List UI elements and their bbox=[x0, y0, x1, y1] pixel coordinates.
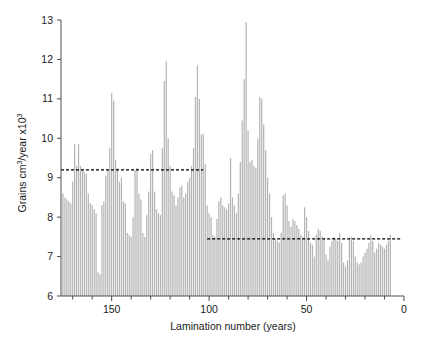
bar bbox=[384, 249, 385, 296]
bar bbox=[283, 195, 284, 296]
bar bbox=[249, 162, 250, 296]
bar bbox=[251, 160, 252, 296]
bar bbox=[207, 205, 208, 296]
bar bbox=[117, 168, 118, 296]
bar bbox=[265, 150, 266, 296]
bar bbox=[378, 243, 379, 296]
bar bbox=[94, 209, 95, 296]
x-tick-label: 150 bbox=[103, 303, 121, 315]
bar bbox=[327, 261, 328, 296]
grain-flux-bar-chart: 678910111213150100500 Lamination number … bbox=[0, 0, 424, 351]
bar bbox=[300, 235, 301, 296]
bar bbox=[144, 237, 145, 296]
bar bbox=[316, 235, 317, 296]
bar bbox=[382, 247, 383, 296]
bar bbox=[292, 219, 293, 296]
bar bbox=[230, 158, 231, 296]
bar bbox=[271, 217, 272, 296]
bar bbox=[240, 162, 241, 296]
bar bbox=[152, 150, 153, 296]
bar bbox=[242, 121, 243, 296]
bar bbox=[337, 241, 338, 296]
bar bbox=[255, 168, 256, 296]
bar bbox=[353, 241, 354, 296]
bar bbox=[82, 170, 83, 296]
y-tick-label: 12 bbox=[41, 53, 53, 65]
bar bbox=[357, 262, 358, 296]
bar bbox=[88, 193, 89, 296]
bar bbox=[333, 237, 334, 296]
bar bbox=[197, 65, 198, 296]
bar bbox=[156, 209, 157, 296]
bar bbox=[294, 221, 295, 296]
bar bbox=[267, 178, 268, 296]
bar bbox=[205, 164, 206, 296]
y-tick-label: 13 bbox=[41, 14, 53, 26]
bar bbox=[304, 207, 305, 296]
bar bbox=[308, 231, 309, 296]
bar bbox=[273, 233, 274, 296]
x-tick-label: 100 bbox=[200, 303, 218, 315]
bar bbox=[366, 249, 367, 296]
bar bbox=[80, 166, 81, 296]
bar bbox=[136, 168, 137, 296]
bar bbox=[177, 197, 178, 296]
bar bbox=[347, 261, 348, 296]
bar bbox=[372, 241, 373, 296]
bar bbox=[386, 245, 387, 296]
bar bbox=[234, 205, 235, 296]
bar bbox=[175, 205, 176, 296]
bar bbox=[349, 239, 350, 296]
bar bbox=[224, 207, 225, 296]
bar bbox=[220, 197, 221, 296]
y-tick-label: 11 bbox=[42, 92, 53, 104]
bar bbox=[359, 264, 360, 296]
bar bbox=[238, 193, 239, 296]
bar bbox=[103, 201, 104, 296]
bar bbox=[320, 231, 321, 296]
bar bbox=[246, 22, 247, 296]
bar bbox=[253, 166, 254, 296]
bar bbox=[374, 253, 375, 296]
bar bbox=[247, 130, 248, 296]
bar bbox=[331, 241, 332, 296]
bar bbox=[183, 197, 184, 296]
y-tick-label: 9 bbox=[47, 171, 53, 183]
figure-container: 678910111213150100500 Lamination number … bbox=[0, 0, 424, 351]
bar bbox=[339, 233, 340, 296]
bar bbox=[158, 213, 159, 296]
bar bbox=[123, 201, 124, 296]
bar bbox=[125, 203, 126, 296]
bar bbox=[179, 188, 180, 296]
bar bbox=[314, 257, 315, 296]
bar bbox=[209, 213, 210, 296]
bar bbox=[322, 237, 323, 296]
bar bbox=[111, 93, 112, 296]
bar bbox=[72, 182, 73, 296]
bar bbox=[113, 101, 114, 296]
bar bbox=[306, 217, 307, 296]
bar bbox=[376, 249, 377, 296]
bar bbox=[92, 205, 93, 296]
bar bbox=[325, 255, 326, 296]
bar bbox=[191, 166, 192, 296]
bar bbox=[84, 172, 85, 296]
bar bbox=[148, 192, 149, 296]
bar bbox=[115, 160, 116, 296]
bar bbox=[129, 235, 130, 296]
bar bbox=[119, 182, 120, 296]
bar bbox=[133, 217, 134, 296]
bar bbox=[86, 174, 87, 296]
bar bbox=[302, 237, 303, 296]
bar bbox=[362, 257, 363, 296]
bar bbox=[216, 219, 217, 296]
bar bbox=[228, 203, 229, 296]
bar bbox=[199, 99, 200, 296]
y-tick-label: 8 bbox=[47, 211, 53, 223]
bar bbox=[173, 195, 174, 296]
bar bbox=[171, 192, 172, 296]
bar bbox=[388, 241, 389, 296]
bar bbox=[99, 274, 100, 296]
chart-background bbox=[0, 0, 424, 351]
bar bbox=[269, 193, 270, 296]
